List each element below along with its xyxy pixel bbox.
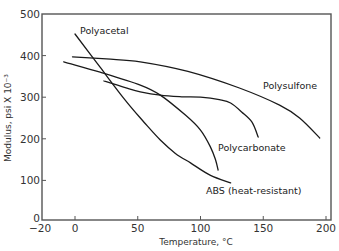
- x-axis-title: Temperature, °C: [158, 237, 233, 247]
- y-tick-label: 300: [20, 91, 40, 103]
- y-tick-label: 500: [20, 8, 40, 20]
- x-tick-label: 150: [253, 222, 273, 234]
- curve-polyacetal: [75, 34, 231, 183]
- x-tick-label: 0: [72, 222, 79, 234]
- label-polyacetal: Polyacetal: [80, 25, 129, 36]
- chart: −20050100150200 0100200300400500 Polyace…: [0, 0, 339, 251]
- series-curves: [64, 34, 320, 183]
- y-tick-label: 400: [20, 50, 40, 62]
- x-tick-label: −20: [29, 222, 51, 234]
- series-labels: PolyacetalPolysulfonePolycarbonateABS (h…: [80, 25, 317, 196]
- curve-polycarbonate: [104, 81, 258, 137]
- x-tick-label: 50: [131, 222, 144, 234]
- y-tick-label: 0: [33, 212, 40, 224]
- x-axis: −20050100150200: [29, 216, 336, 234]
- x-tick-label: 100: [190, 222, 210, 234]
- label-polysulfone: Polysulfone: [263, 80, 317, 91]
- label-abs-heat-resistant: ABS (heat-resistant): [206, 185, 302, 196]
- y-tick-label: 200: [20, 133, 40, 145]
- label-polycarbonate: Polycarbonate: [218, 142, 286, 153]
- y-axis-title: Modulus, psi X 10⁻³: [3, 74, 13, 162]
- y-tick-label: 100: [20, 174, 40, 186]
- x-tick-label: 200: [316, 222, 336, 234]
- curve-abs-heat-resistant: [64, 62, 218, 170]
